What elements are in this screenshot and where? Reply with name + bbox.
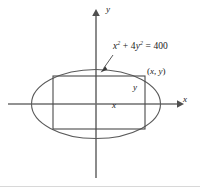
rectangle-width-label: x: [112, 101, 116, 110]
rectangle-height-label: y: [133, 83, 137, 92]
y-axis-arrow-icon: [92, 9, 100, 16]
ellipse-equation-label: x2 + 4y2 = 400: [113, 42, 168, 52]
ellipse-rectangle-figure: x2 + 4y2 = 400 (x, y) y x y x: [0, 0, 200, 192]
figure-canvas: [0, 0, 200, 192]
y-axis: [92, 9, 100, 178]
equation-right-side: = 400: [143, 41, 168, 51]
x-axis-label: x: [183, 95, 187, 104]
equation-plus-term: + 4: [120, 41, 135, 51]
y-axis-label: y: [106, 5, 110, 14]
point-paren-close: ): [163, 66, 166, 76]
point-coordinate-label: (x, y): [147, 67, 166, 76]
leader-line-stroke: [104, 55, 114, 69]
inscribed-rectangle: [53, 76, 145, 129]
